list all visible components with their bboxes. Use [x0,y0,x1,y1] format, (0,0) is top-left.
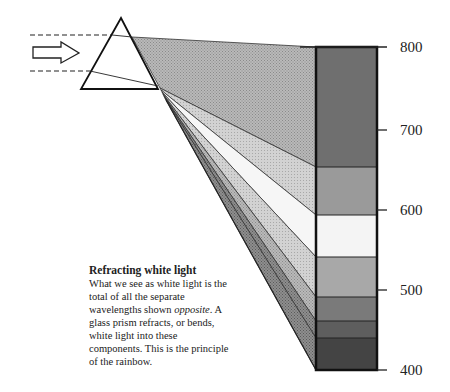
band-orange [316,167,377,215]
axis-tick-600: 600 [400,203,423,218]
wavelength-bar [316,47,377,370]
axis-tick-400: 400 [400,363,423,378]
band-indigo [316,321,377,338]
band-green [316,257,377,297]
axis-tick-700: 700 [400,123,423,138]
white-light-arrow-icon [33,42,79,63]
caption-body-italic: opposite [174,304,210,315]
axis-tick-800: 800 [400,40,423,55]
axis-tick-500: 500 [400,283,423,298]
band-red [316,47,377,167]
band-blue [316,297,377,321]
caption: Refracting white light What we see as wh… [89,264,229,368]
band-yellow [316,215,377,257]
caption-title: Refracting white light [89,264,229,277]
band-violet [316,338,377,370]
